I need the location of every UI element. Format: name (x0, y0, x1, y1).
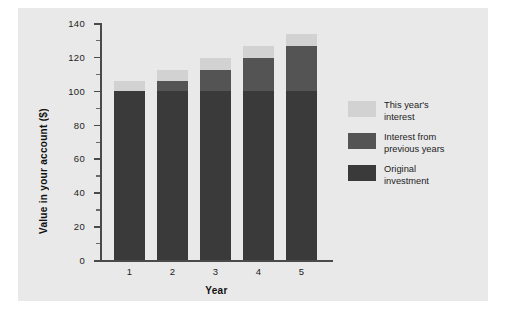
legend-label: Interest from previous years (384, 132, 444, 155)
bar-segment (200, 91, 231, 260)
x-axis-title: Year (100, 285, 333, 296)
bar-2 (157, 70, 188, 260)
y-tick-major: 140 (94, 23, 100, 25)
y-tick-major: 60 (94, 158, 100, 160)
bar-segment (200, 58, 231, 69)
y-tick-label: 120 (68, 51, 85, 62)
bar-segment (114, 81, 145, 91)
y-tick-label: 100 (68, 85, 85, 96)
y-tick-label: 0 (79, 255, 85, 266)
legend-item: Original investment (348, 164, 478, 187)
y-tick-label: 60 (74, 153, 85, 164)
bar-segment (243, 91, 274, 260)
x-tick-label: 2 (157, 266, 188, 277)
y-tick-major: 80 (94, 125, 100, 127)
x-tick-label: 4 (243, 266, 274, 277)
y-tick-minor (96, 40, 100, 41)
x-axis-line (100, 260, 333, 262)
bar-segment (157, 81, 188, 91)
bar-5 (286, 34, 317, 260)
y-tick-minor (96, 209, 100, 210)
y-axis-title: Value in your account ($) (38, 54, 49, 234)
y-tick-minor (96, 108, 100, 109)
plot-area: 020406080100120140 12345 Year (100, 23, 330, 260)
y-tick-label: 40 (74, 187, 85, 198)
bar-4 (243, 46, 274, 260)
y-tick-label: 140 (68, 18, 85, 29)
bar-segment (286, 46, 317, 90)
y-tick-major: 120 (94, 57, 100, 59)
x-tick-label: 5 (286, 266, 317, 277)
y-tick-label: 80 (74, 119, 85, 130)
chart-legend: This year's interestInterest from previo… (348, 100, 478, 196)
y-tick-label: 20 (74, 221, 85, 232)
y-axis-line (100, 23, 102, 260)
legend-swatch (348, 101, 376, 117)
y-tick-minor (96, 243, 100, 244)
bar-segment (200, 70, 231, 91)
legend-label: Original investment (384, 164, 429, 187)
y-tick-major: 40 (94, 192, 100, 194)
y-tick-major: 20 (94, 226, 100, 228)
y-tick-minor (96, 142, 100, 143)
bar-segment (157, 70, 188, 81)
y-tick-minor (96, 74, 100, 75)
y-tick-minor (96, 175, 100, 176)
legend-swatch (348, 133, 376, 149)
bar-segment (243, 58, 274, 90)
chart-figure: Value in your account ($) 02040608010012… (18, 8, 488, 301)
bar-segment (286, 91, 317, 260)
legend-item: This year's interest (348, 100, 478, 123)
y-tick-major: 0 (94, 260, 100, 262)
legend-label: This year's interest (384, 100, 429, 123)
bar-segment (286, 34, 317, 47)
legend-swatch (348, 165, 376, 181)
bar-segment (157, 91, 188, 260)
bar-segment (243, 46, 274, 58)
x-tick-label: 1 (114, 266, 145, 277)
x-tick-label: 3 (200, 266, 231, 277)
bar-segment (114, 91, 145, 260)
bar-3 (200, 58, 231, 260)
legend-item: Interest from previous years (348, 132, 478, 155)
y-tick-major: 100 (94, 91, 100, 93)
bar-1 (114, 81, 145, 260)
